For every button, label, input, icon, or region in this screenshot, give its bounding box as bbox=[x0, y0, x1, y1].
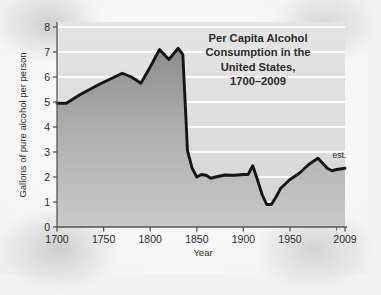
y-tick-label-4: 4 bbox=[44, 121, 50, 133]
chart-title-line-1: Per Capita Alcohol bbox=[208, 32, 307, 44]
x-tick-label-1800: 1800 bbox=[139, 233, 163, 245]
y-tick-label-5: 5 bbox=[44, 96, 50, 108]
y-tick-label-8: 8 bbox=[44, 21, 50, 33]
x-tick-label-1750: 1750 bbox=[92, 233, 116, 245]
y-axis-ticks: 012345678 bbox=[44, 21, 57, 233]
y-tick-label-2: 2 bbox=[44, 171, 50, 183]
y-tick-label-1: 1 bbox=[44, 196, 50, 208]
y-axis-title: Gallons of pure alcohol per person bbox=[17, 52, 28, 197]
x-tick-label-1950: 1950 bbox=[278, 233, 302, 245]
x-tick-label-1850: 1850 bbox=[185, 233, 209, 245]
estimate-note: est. bbox=[332, 150, 346, 160]
y-tick-label-3: 3 bbox=[44, 146, 50, 158]
chart-title-line-4: 1700–2009 bbox=[230, 75, 286, 87]
x-tick-label-2009: 2009 bbox=[333, 233, 357, 245]
x-tick-label-1700: 1700 bbox=[45, 233, 69, 245]
chart-title-line-2: Consumption in the bbox=[205, 46, 310, 58]
y-tick-label-7: 7 bbox=[44, 46, 50, 58]
chart-annotations: est. bbox=[332, 150, 346, 160]
y-tick-label-6: 6 bbox=[44, 71, 50, 83]
x-axis-ticks: 1700175018001850190019502009 bbox=[45, 227, 357, 245]
chart-title-line-3: United States, bbox=[221, 61, 296, 73]
x-axis-title: Year bbox=[193, 247, 212, 258]
x-tick-label-1900: 1900 bbox=[232, 233, 256, 245]
y-tick-label-0: 0 bbox=[44, 221, 50, 233]
